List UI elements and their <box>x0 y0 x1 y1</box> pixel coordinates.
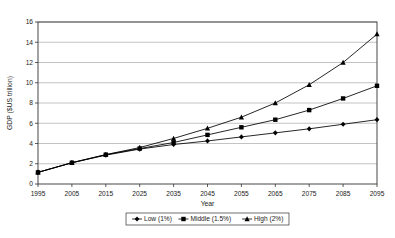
x-axis-tick-label: 2075 <box>302 190 317 197</box>
y-axis-tick-label: 12 <box>26 59 34 66</box>
x-axis-title: Year <box>201 200 215 207</box>
y-axis-tick-label: 2 <box>29 160 33 167</box>
x-axis: 1995200520152025203520452055206520752085… <box>31 184 385 197</box>
x-axis-tick-label: 2025 <box>132 190 147 197</box>
y-axis-tick-label: 14 <box>26 39 34 46</box>
data-point <box>239 125 243 129</box>
legend-label: High (2%) <box>254 215 283 223</box>
legend: Low (1%)Middle (1.5%)High (2%) <box>126 213 289 225</box>
data-point <box>375 84 379 88</box>
y-axis-tick-label: 0 <box>29 180 33 187</box>
y-axis-tick-label: 8 <box>29 99 33 106</box>
data-point <box>273 118 277 122</box>
legend-label: Middle (1.5%) <box>190 215 231 223</box>
x-axis-tick-label: 2015 <box>98 190 113 197</box>
x-axis-tick-label: 2095 <box>370 190 385 197</box>
legend-marker <box>181 217 185 221</box>
x-axis-tick-label: 2055 <box>234 190 249 197</box>
chart-canvas: 0246810121416199520052015202520352045205… <box>0 0 395 238</box>
x-axis-tick-label: 2005 <box>65 190 80 197</box>
gdp-projection-chart: 0246810121416199520052015202520352045205… <box>0 0 395 238</box>
x-axis-tick-label: 2085 <box>336 190 351 197</box>
legend-label: Low (1%) <box>144 215 172 223</box>
y-axis-tick-label: 10 <box>26 79 34 86</box>
x-axis-tick-label: 2045 <box>200 190 215 197</box>
data-point <box>171 140 175 144</box>
data-point <box>341 96 345 100</box>
data-point <box>205 133 209 137</box>
data-point <box>307 108 311 112</box>
x-axis-tick-label: 2065 <box>268 190 283 197</box>
x-axis-tick-label: 1995 <box>31 190 46 197</box>
x-axis-tick-label: 2035 <box>166 190 181 197</box>
y-axis-tick-label: 16 <box>26 18 34 25</box>
y-axis-tick-label: 6 <box>29 120 33 127</box>
y-axis-title: GDP ($US trillion) <box>6 76 14 130</box>
y-axis-tick-label: 4 <box>29 140 33 147</box>
